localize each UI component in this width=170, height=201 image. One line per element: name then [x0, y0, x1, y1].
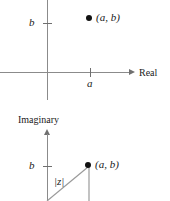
point-marker-ab — [86, 15, 92, 21]
point-label-ab: (a, b) — [96, 12, 120, 23]
tick-b-mark — [43, 23, 52, 24]
panel-real-axis-diagram: Real b a (a, b) — [0, 0, 170, 100]
modulus-segments — [0, 100, 170, 201]
tick-a-mark — [90, 68, 91, 77]
modulus-label: |z| — [54, 176, 64, 187]
point-marker-ab — [85, 162, 91, 168]
real-axis-label: Real — [139, 68, 157, 78]
vertical-axis — [47, 0, 48, 100]
horizontal-axis — [0, 72, 130, 73]
panel-modulus-diagram: Imaginary b |z| (a, b) — [0, 100, 170, 201]
real-axis-arrow-icon — [129, 69, 135, 75]
complex-plane-figure: Real b a (a, b) Imaginary b |z| (a, — [0, 0, 170, 201]
tick-b-label: b — [29, 17, 35, 28]
tick-a-label: a — [87, 78, 93, 89]
point-label-ab: (a, b) — [95, 159, 119, 170]
